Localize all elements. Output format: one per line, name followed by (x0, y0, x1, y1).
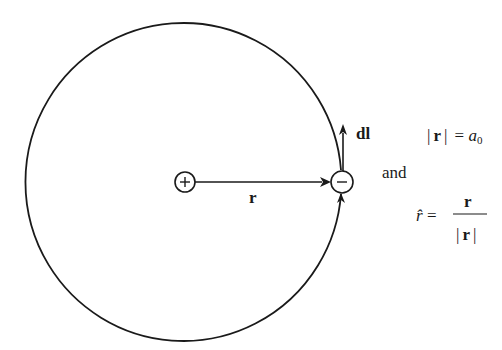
bohr-radius-symbol: a (468, 126, 477, 145)
fraction-denominator: |r| (453, 226, 479, 243)
equation-unit-vector-lhs: r̂ = (416, 207, 436, 224)
equals-sign: = (427, 206, 437, 225)
and-connector: and (382, 164, 407, 181)
denominator-r-variable: r (462, 225, 470, 244)
dl-vector-label: dl (356, 125, 370, 142)
abs-bar-right: | (441, 126, 450, 145)
equals-sign: = (455, 126, 465, 145)
bohr-radius-subscript: 0 (477, 134, 483, 146)
eq1-r-variable: r (433, 126, 441, 145)
r-vector-label: r (249, 189, 257, 206)
fraction-numerator: r (464, 193, 472, 210)
r-vector-arrow (195, 177, 331, 187)
abs-bar-left: | (453, 225, 462, 244)
abs-bar-left: | (424, 126, 433, 145)
electron-charge (331, 171, 353, 193)
bohr-atom-diagram: r dl |r| = a0 and r̂ = r |r| (0, 0, 502, 350)
r-hat-symbol: r̂ (416, 206, 423, 225)
equation-radius: |r| = a0 (424, 127, 482, 146)
nucleus-charge (175, 172, 195, 192)
abs-bar-right: | (470, 225, 479, 244)
diagram-canvas (0, 0, 502, 350)
